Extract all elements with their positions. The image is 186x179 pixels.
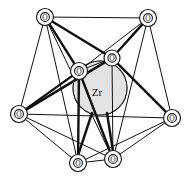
polyhedron-edge <box>78 78 79 155</box>
polyhedron-edge <box>117 24 143 53</box>
ligand-atom-o-right: O <box>164 110 181 127</box>
polyhedron-edge <box>21 24 43 107</box>
polyhedron-edge <box>51 21 106 54</box>
ligand-atom-o-left: O <box>11 106 28 123</box>
polyhedron-edge <box>49 23 75 64</box>
center-atom-label: Zr <box>92 86 103 98</box>
atom-label: O <box>169 114 175 123</box>
molecule-figure: Zr OOOOOOOO <box>0 0 186 179</box>
polyhedron-edge <box>85 121 165 160</box>
ligand-atom-o-top-left: O <box>37 9 54 26</box>
atom-label: O <box>109 54 115 63</box>
atom-label: O <box>75 159 81 168</box>
polyhedron-edge <box>25 75 73 109</box>
polyhedron-edge <box>78 113 92 156</box>
atom-label: O <box>16 110 22 119</box>
polyhedron-edge <box>26 117 106 156</box>
ligand-atom-o-bottom-right: O <box>105 151 122 168</box>
atom-label: O <box>76 67 82 76</box>
polyhedron-edge <box>52 17 140 18</box>
atom-label: O <box>145 14 151 23</box>
polyhedron-edge <box>119 122 166 154</box>
polyhedron-edge <box>25 119 72 158</box>
ligand-atom-o-mid-right: O <box>104 50 120 66</box>
polyhedron-canvas: Zr OOOOOOOO <box>0 0 186 179</box>
ligand-atom-o-top-right: O <box>140 10 157 27</box>
polyhedron-edge <box>85 160 105 162</box>
ligand-atom-o-bottom-left: O <box>70 155 87 172</box>
atom-label: O <box>110 155 116 164</box>
ligand-atom-o-mid-left: O <box>71 63 88 80</box>
atom-label: O <box>42 13 48 22</box>
